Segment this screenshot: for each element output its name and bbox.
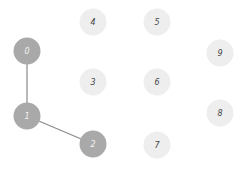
node-4[interactable]: 4 <box>80 9 107 36</box>
node-label: 6 <box>154 78 159 87</box>
node-3[interactable]: 3 <box>80 69 107 96</box>
node-6[interactable]: 6 <box>144 69 171 96</box>
node-1[interactable]: 1 <box>14 103 41 130</box>
node-8[interactable]: 8 <box>207 100 234 127</box>
node-label: 2 <box>90 140 95 149</box>
graph-canvas: 0123456789 <box>0 0 243 172</box>
node-label: 3 <box>90 78 95 87</box>
node-label: 9 <box>217 49 222 58</box>
nodes-layer: 0123456789 <box>14 9 234 159</box>
node-label: 0 <box>24 47 29 56</box>
node-label: 5 <box>154 18 159 27</box>
node-label: 4 <box>90 18 95 27</box>
node-9[interactable]: 9 <box>207 40 234 67</box>
node-5[interactable]: 5 <box>144 9 171 36</box>
node-label: 8 <box>217 109 222 118</box>
edges-layer <box>27 51 93 144</box>
node-0[interactable]: 0 <box>14 38 41 65</box>
node-2[interactable]: 2 <box>80 131 107 158</box>
node-label: 1 <box>24 112 29 121</box>
node-7[interactable]: 7 <box>144 132 171 159</box>
